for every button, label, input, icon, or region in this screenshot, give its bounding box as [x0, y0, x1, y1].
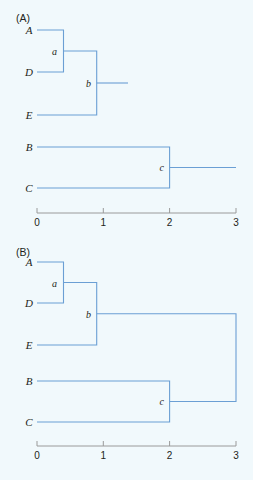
panel-b-tick-label-1: 1: [101, 450, 107, 461]
panel-b-node-label-b: b: [86, 309, 91, 320]
panel-a-tick-label-2: 2: [167, 217, 173, 228]
panel-a-leaf-label-E: E: [25, 109, 33, 121]
panel-b-node-label-a: a: [52, 278, 57, 289]
panel-b-leaf-label-B: B: [26, 375, 33, 387]
panel-a-label: (A): [16, 12, 30, 24]
panel-a-tick-label-0: 0: [34, 217, 40, 228]
panel-a-tick-label-1: 1: [101, 217, 107, 228]
panel-b-leaf-label-A: A: [25, 256, 33, 268]
panel-a-leaf-label-C: C: [25, 182, 33, 194]
panel-a-node-label-c: c: [160, 162, 165, 173]
panel-a-leaf-label-D: D: [24, 66, 33, 78]
panel-b-leaf-label-D: D: [24, 297, 33, 309]
dendrogram-figure: (A) A D E B C a b c 0 1 2 3: [0, 0, 253, 480]
panel-a-node-label-b: b: [86, 78, 91, 89]
panel-b-tick-label-0: 0: [34, 450, 40, 461]
panel-b-tick-label-3: 3: [233, 450, 239, 461]
panel-a-leaf-label-A: A: [25, 24, 33, 36]
panel-b-leaf-label-E: E: [25, 339, 33, 351]
panel-b-tick-label-2: 2: [167, 450, 173, 461]
panel-a-leaf-label-B: B: [26, 141, 33, 153]
panel-b-node-label-c: c: [160, 396, 165, 407]
panel-a-node-label-a: a: [52, 46, 57, 57]
panel-a-tick-label-3: 3: [233, 217, 239, 228]
panel-b-leaf-label-C: C: [25, 416, 33, 428]
